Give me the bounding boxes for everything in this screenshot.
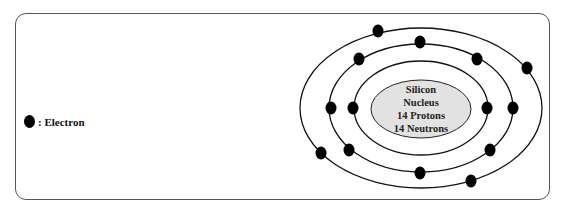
electron-icon: [522, 62, 533, 75]
electron-icon: [415, 36, 426, 49]
nucleus-neutrons: 14 Neutrons: [394, 122, 448, 135]
electron-icon: [482, 102, 493, 115]
electron-icon: [348, 102, 359, 115]
nucleus-word: Nucleus: [403, 96, 439, 109]
electron-icon: [344, 144, 355, 157]
nucleus-label: Silicon Nucleus 14 Protons 14 Neutrons: [371, 81, 471, 137]
electron-icon: [466, 175, 477, 188]
electron-icon: [415, 167, 426, 180]
electron-icon: [485, 144, 496, 157]
atom-diagram: [0, 0, 568, 208]
electron-icon: [472, 53, 483, 66]
electron-icon: [326, 102, 337, 115]
electron-icon: [508, 102, 519, 115]
nucleus-protons: 14 Protons: [397, 109, 445, 122]
electron-icon: [354, 53, 365, 66]
nucleus-element: Silicon: [406, 83, 436, 96]
electron-icon: [316, 147, 327, 160]
electron-icon: [373, 25, 384, 38]
